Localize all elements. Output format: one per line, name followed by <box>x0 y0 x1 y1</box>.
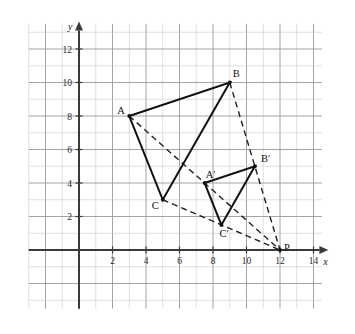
point-label-A-prime: A′ <box>206 169 216 180</box>
vertex-marker <box>253 164 257 168</box>
coordinate-plane: 246810121424681012 ABCA′B′C′P xy <box>0 0 355 334</box>
y-tick-label: 10 <box>63 78 73 88</box>
x-tick-label: 8 <box>211 256 216 266</box>
x-tick-label: 10 <box>242 256 252 266</box>
vertex-marker <box>203 181 207 185</box>
point-label-C: C <box>152 200 159 211</box>
y-tick-label: 2 <box>67 212 72 222</box>
vertex-marker <box>127 114 131 118</box>
y-tick-label: 6 <box>67 145 72 155</box>
y-tick-label: 4 <box>67 179 72 189</box>
x-tick-label: 2 <box>110 256 115 266</box>
point-label-C-prime: C′ <box>219 228 228 239</box>
vertex-marker <box>161 198 165 202</box>
x-tick-label: 12 <box>275 256 285 266</box>
x-axis-label: x <box>322 256 328 267</box>
x-tick-label: 6 <box>177 256 182 266</box>
x-tick-label: 4 <box>144 256 149 266</box>
vertex-marker <box>278 248 282 252</box>
x-tick-label: 14 <box>309 256 319 266</box>
point-label-A: A <box>117 105 125 116</box>
y-tick-label: 12 <box>63 45 73 55</box>
y-tick-label: 8 <box>67 112 72 122</box>
y-axis-label: y <box>67 21 73 32</box>
vertex-marker <box>228 81 232 85</box>
vertex-marker <box>219 223 223 227</box>
point-label-P: P <box>284 242 290 253</box>
dilation-figure: 246810121424681012 ABCA′B′C′P xy <box>0 0 355 334</box>
point-label-B: B <box>233 68 240 79</box>
point-label-B-prime: B′ <box>261 153 270 164</box>
